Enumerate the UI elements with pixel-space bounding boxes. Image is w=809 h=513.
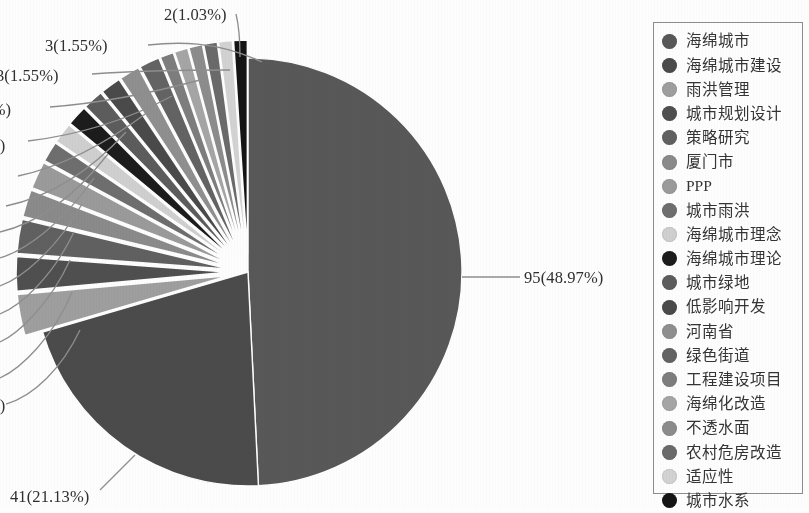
legend-item-label: 海绵城市 [686,33,750,49]
legend-item-label: 城市规划设计 [686,106,782,122]
legend-item-label: 河南省 [686,324,734,340]
legend-item-label: 海绵化改造 [686,396,766,412]
legend-item[interactable]: 雨洪管理 [662,77,802,101]
legend-item[interactable]: 农村危房改造 [662,440,802,464]
legend-color-swatch-icon [662,58,677,73]
legend-item[interactable]: 城市水系 [662,489,802,513]
legend-item[interactable]: 海绵城市建设 [662,53,802,77]
legend-color-swatch-icon [662,372,677,387]
legend-color-swatch-icon [662,155,677,170]
pie-data-label: 41(21.13%) [10,487,89,507]
legend-item[interactable]: 低影响开发 [662,295,802,319]
legend-color-swatch-icon [662,445,677,460]
legend-item[interactable]: 海绵城市理论 [662,247,802,271]
legend-item[interactable]: 城市雨洪 [662,198,802,222]
legend-box: 海绵城市海绵城市建设雨洪管理城市规划设计策略研究厦门市PPP城市雨洪海绵城市理念… [653,22,803,494]
legend-item-label: 城市水系 [686,493,750,509]
legend-item[interactable]: 河南省 [662,319,802,343]
legend-item[interactable]: 绿色街道 [662,343,802,367]
legend-color-swatch-icon [662,82,677,97]
legend-color-swatch-icon [662,396,677,411]
pie-slice [248,58,462,486]
pie-data-label: %) [0,396,5,416]
legend-item-label: 海绵城市建设 [686,58,782,74]
legend-color-swatch-icon [662,421,677,436]
legend-item-label: 农村危房改造 [686,445,782,461]
legend-item-label: 不透水面 [686,420,750,436]
legend-item-label: 低影响开发 [686,299,766,315]
legend-item[interactable]: 不透水面 [662,416,802,440]
legend-color-swatch-icon [662,34,677,49]
legend-color-swatch-icon [662,106,677,121]
pie-svg [0,0,650,508]
legend-item-label: 城市雨洪 [686,203,750,219]
legend-color-swatch-icon [662,324,677,339]
legend-color-swatch-icon [662,227,677,242]
pie-data-label: 2(1.03%) [164,5,227,25]
legend-color-swatch-icon [662,275,677,290]
pie-data-label: 3(1.55%) [0,66,59,86]
legend-item[interactable]: 策略研究 [662,126,802,150]
legend-item-label: PPP [686,178,712,194]
legend-item[interactable]: 海绵化改造 [662,392,802,416]
legend-item-list: 海绵城市海绵城市建设雨洪管理城市规划设计策略研究厦门市PPP城市雨洪海绵城市理念… [662,29,802,513]
legend-color-swatch-icon [662,203,677,218]
legend-item[interactable]: 海绵城市理念 [662,223,802,247]
legend-item[interactable]: 适应性 [662,464,802,488]
legend-item-label: 工程建设项目 [686,372,782,388]
legend-item-label: 绿色街道 [686,348,750,364]
pie-data-label: 55%) [0,100,11,120]
legend-item-label: 雨洪管理 [686,82,750,98]
legend-item[interactable]: 城市绿地 [662,271,802,295]
legend-item-label: 海绵城市理论 [686,251,782,267]
legend-item[interactable]: 厦门市 [662,150,802,174]
legend-color-swatch-icon [662,179,677,194]
legend-item[interactable]: 工程建设项目 [662,368,802,392]
pie-data-label: %) [0,136,5,156]
pie-chart [0,0,650,508]
legend-item-label: 厦门市 [686,154,734,170]
legend-item-label: 适应性 [686,469,734,485]
legend-item-label: 策略研究 [686,130,750,146]
pie-slice-group [16,40,462,486]
legend-color-swatch-icon [662,130,677,145]
legend-item[interactable]: 城市规划设计 [662,102,802,126]
pie-data-label: 3(1.55%) [45,36,108,56]
legend-item[interactable]: 海绵城市 [662,29,802,53]
legend-color-swatch-icon [662,348,677,363]
legend-color-swatch-icon [662,251,677,266]
legend-color-swatch-icon [662,493,677,508]
legend-color-swatch-icon [662,469,677,484]
legend-item[interactable]: PPP [662,174,802,198]
legend-item-label: 城市绿地 [686,275,750,291]
leader-line [100,455,135,490]
legend-item-label: 海绵城市理念 [686,227,782,243]
pie-data-label: 95(48.97%) [524,268,603,288]
legend-color-swatch-icon [662,300,677,315]
